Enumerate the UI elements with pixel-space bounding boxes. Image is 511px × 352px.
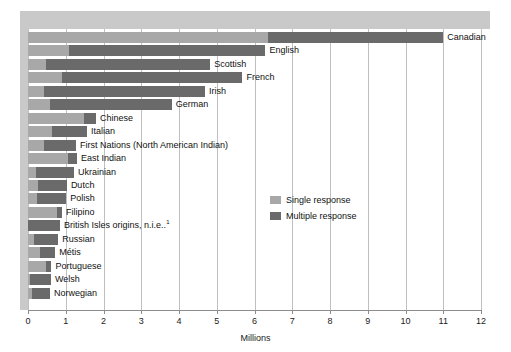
bar-category-label: German — [176, 99, 209, 110]
bar-segment-multiple-response — [37, 193, 66, 204]
bar-segment-single-response — [28, 247, 40, 258]
bar-row[interactable]: English — [0, 45, 511, 56]
bar-segment-single-response — [28, 113, 84, 124]
legend-label: Multiple response — [286, 211, 357, 221]
x-tick — [330, 310, 331, 314]
bar-category-label: Canadian — [447, 32, 486, 43]
legend-item-single-response[interactable]: Single response — [270, 190, 357, 206]
bar-category-label: Italian — [91, 126, 115, 137]
bar-segment-multiple-response — [28, 220, 60, 231]
x-tick-label: 5 — [205, 316, 229, 326]
chart-header-banner — [20, 11, 490, 29]
bar-row[interactable]: Filipino — [0, 207, 511, 218]
chart-legend: Single responseMultiple response — [270, 190, 357, 222]
x-axis-title: Millions — [0, 333, 511, 343]
bar-segment-single-response — [28, 207, 57, 218]
x-tick-label: 8 — [318, 316, 342, 326]
bar-row[interactable]: Ukrainian — [0, 167, 511, 178]
x-tick — [28, 310, 29, 314]
bar-segment-multiple-response — [69, 45, 266, 56]
bar-category-label: First Nations (North American Indian) — [80, 140, 228, 151]
x-tick — [66, 310, 67, 314]
x-tick-label: 1 — [54, 316, 78, 326]
bar-segment-single-response — [28, 180, 38, 191]
bar-row[interactable]: Chinese — [0, 113, 511, 124]
bar-row[interactable]: Russian — [0, 234, 511, 245]
bar-segment-multiple-response — [268, 32, 444, 43]
bar-row[interactable]: German — [0, 99, 511, 110]
bar-segment-multiple-response — [38, 180, 67, 191]
bar-category-label: Filipino — [66, 207, 95, 218]
bar-segment-multiple-response — [84, 113, 96, 124]
x-tick-label: 7 — [280, 316, 304, 326]
bar-segment-single-response — [28, 45, 69, 56]
x-tick — [217, 310, 218, 314]
bar-row[interactable]: Métis — [0, 247, 511, 258]
bar-segment-single-response — [28, 126, 52, 137]
x-tick — [141, 310, 142, 314]
bar-category-label: Scottish — [214, 59, 246, 70]
x-tick-label: 0 — [16, 316, 40, 326]
bar-row[interactable]: First Nations (North American Indian) — [0, 140, 511, 151]
bar-segment-single-response — [28, 153, 68, 164]
x-tick — [292, 310, 293, 314]
bar-segment-single-response — [28, 59, 46, 70]
bar-segment-single-response — [28, 140, 44, 151]
x-tick-label: 2 — [92, 316, 116, 326]
bar-row[interactable]: Italian — [0, 126, 511, 137]
bar-category-label: English — [269, 45, 299, 56]
bar-row[interactable]: Welsh — [0, 274, 511, 285]
bar-category-label: Polish — [70, 193, 95, 204]
x-tick-label: 3 — [129, 316, 153, 326]
bar-row[interactable]: French — [0, 72, 511, 83]
bar-segment-multiple-response — [32, 288, 50, 299]
bar-segment-single-response — [28, 99, 50, 110]
bar-category-label: Irish — [209, 86, 226, 97]
chart-title — [0, 0, 511, 7]
bar-category-label: Portuguese — [55, 261, 101, 272]
bar-row[interactable]: Portuguese — [0, 261, 511, 272]
bar-category-label: Dutch — [71, 180, 95, 191]
bar-segment-multiple-response — [40, 247, 55, 258]
bar-category-label: Russian — [62, 234, 95, 245]
legend-item-multiple-response[interactable]: Multiple response — [270, 206, 357, 222]
legend-label: Single response — [286, 195, 351, 205]
bar-segment-single-response — [28, 261, 46, 272]
bar-category-label: British Isles origins, n.i.e..1 — [64, 220, 169, 231]
bar-row[interactable]: East Indian — [0, 153, 511, 164]
legend-swatch-icon — [270, 196, 281, 204]
bar-segment-multiple-response — [46, 59, 210, 70]
bar-row[interactable]: Scottish — [0, 59, 511, 70]
bar-category-label: Chinese — [100, 113, 133, 124]
bar-segment-multiple-response — [34, 234, 58, 245]
bar-row[interactable]: Norwegian — [0, 288, 511, 299]
bar-segment-multiple-response — [36, 167, 74, 178]
x-tick-label: 6 — [243, 316, 267, 326]
x-tick — [406, 310, 407, 314]
x-tick-label: 4 — [167, 316, 191, 326]
bar-segment-single-response — [28, 86, 44, 97]
bar-category-label: Welsh — [55, 274, 80, 285]
bar-segment-multiple-response — [44, 140, 76, 151]
x-tick — [368, 310, 369, 314]
x-tick-label: 10 — [394, 316, 418, 326]
bar-row[interactable]: Irish — [0, 86, 511, 97]
bar-segment-single-response — [28, 193, 37, 204]
bar-category-label: Métis — [59, 247, 81, 258]
x-tick-label: 11 — [431, 316, 455, 326]
bar-segment-multiple-response — [44, 86, 205, 97]
x-tick — [481, 310, 482, 314]
bar-row[interactable]: Polish — [0, 193, 511, 204]
bar-segment-multiple-response — [52, 126, 87, 137]
bar-row[interactable]: British Isles origins, n.i.e..1 — [0, 220, 511, 231]
bar-segment-multiple-response — [62, 72, 242, 83]
bar-row[interactable]: Canadian — [0, 32, 511, 43]
bar-segment-single-response — [28, 167, 36, 178]
bar-category-label: French — [246, 72, 274, 83]
x-tick-label: 9 — [356, 316, 380, 326]
bar-segment-multiple-response — [68, 153, 77, 164]
legend-swatch-icon — [270, 212, 281, 220]
bar-segment-multiple-response — [57, 207, 62, 218]
bar-category-label: Ukrainian — [78, 167, 116, 178]
bar-row[interactable]: Dutch — [0, 180, 511, 191]
